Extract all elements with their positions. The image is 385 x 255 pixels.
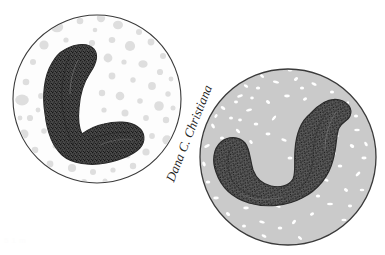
left-cell-panel (13, 14, 181, 185)
right-cell-panel (196, 69, 376, 246)
blood-cell-figure: Dana C. Christiana (0, 0, 385, 255)
faint-caption: 5 1 m (4, 236, 26, 245)
